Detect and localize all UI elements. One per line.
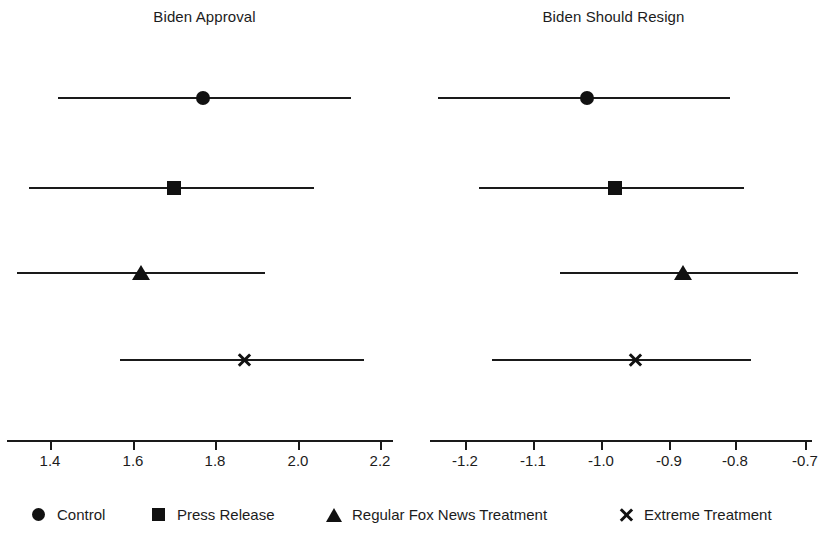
x-axis-tick-label: 1.6 (123, 452, 144, 469)
x-axis-tick (298, 442, 300, 450)
estimate-marker-triangle-icon (132, 265, 150, 280)
coefficient-plot-figure: Biden Approval 1.41.61.82.02.2 Biden Sho… (0, 0, 818, 536)
estimate-marker-triangle-icon (674, 265, 692, 280)
estimate-marker-circle-icon (580, 91, 594, 105)
legend-item[interactable]: Control (30, 500, 105, 528)
x-axis-tick (215, 442, 217, 450)
legend-label: Regular Fox News Treatment (352, 506, 547, 523)
legend-item[interactable]: Press Release (150, 500, 275, 528)
legend-marker-square-icon (150, 505, 168, 523)
x-axis-tick-label: -1.1 (520, 452, 546, 469)
legend-marker-circle-icon (30, 505, 48, 523)
legend-label: Extreme Treatment (644, 506, 772, 523)
x-axis-tick-label: 1.4 (40, 452, 61, 469)
panel-biden-approval: Biden Approval 1.41.61.82.02.2 (0, 0, 409, 490)
x-axis-tick-label: -1.0 (588, 452, 614, 469)
legend: ControlPress ReleaseRegular Fox News Tre… (0, 500, 818, 536)
x-axis-tick-label: -1.2 (452, 452, 478, 469)
x-axis-tick (533, 442, 535, 450)
estimate-row (0, 348, 409, 372)
estimate-marker-square-icon (608, 181, 622, 195)
x-axis-tick-label: -0.9 (656, 452, 682, 469)
x-axis-tick-label: 1.8 (205, 452, 226, 469)
estimate-row (409, 176, 818, 200)
x-axis-left: 1.41.61.82.02.2 (7, 440, 393, 480)
x-axis-tick (601, 442, 603, 450)
estimate-row (409, 86, 818, 110)
estimate-row (0, 86, 409, 110)
x-axis-tick (465, 442, 467, 450)
x-axis-tick-label: -0.7 (792, 452, 818, 469)
x-axis-tick (380, 442, 382, 450)
estimate-marker-square-icon (167, 181, 181, 195)
legend-marker-triangle-icon (325, 505, 343, 523)
estimate-row (0, 176, 409, 200)
legend-label: Control (57, 506, 105, 523)
estimate-marker-cross-icon (236, 352, 252, 368)
x-axis-tick-label: 2.2 (370, 452, 391, 469)
x-axis-tick (735, 442, 737, 450)
estimate-row (409, 261, 818, 285)
x-axis-tick (50, 442, 52, 450)
x-axis-right: -1.2-1.1-1.0-0.9-0.8-0.7 (430, 440, 812, 480)
plot-area-right (409, 0, 818, 490)
estimate-row (409, 348, 818, 372)
plot-area-left (0, 0, 409, 490)
estimate-marker-circle-icon (196, 91, 210, 105)
x-axis-tick (133, 442, 135, 450)
x-axis-tick-label: -0.8 (722, 452, 748, 469)
legend-item[interactable]: Regular Fox News Treatment (325, 500, 547, 528)
estimate-row (0, 261, 409, 285)
x-axis-tick-label: 2.0 (288, 452, 309, 469)
x-axis-tick (669, 442, 671, 450)
axis-line (430, 440, 812, 442)
legend-marker-cross-icon (617, 505, 635, 523)
legend-item[interactable]: Extreme Treatment (617, 500, 772, 528)
panel-biden-should-resign: Biden Should Resign -1.2-1.1-1.0-0.9-0.8… (409, 0, 818, 490)
x-axis-tick (805, 442, 807, 450)
estimate-marker-cross-icon (627, 352, 643, 368)
axis-line (7, 440, 393, 442)
legend-label: Press Release (177, 506, 275, 523)
confidence-interval-line (492, 359, 750, 361)
